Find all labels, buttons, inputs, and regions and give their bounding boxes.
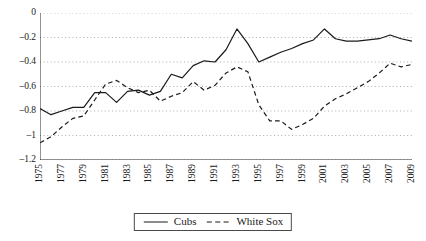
plot-area xyxy=(40,13,412,160)
y-tick-label: –0.6 xyxy=(19,82,36,92)
line-chart: 0–0.2–0.4–0.6–0.8–1–1.2 1975197719791981… xyxy=(0,0,426,241)
x-tick-label: 2007 xyxy=(385,164,395,183)
x-tick-label: 1989 xyxy=(188,164,198,183)
legend-line-dashed-icon xyxy=(205,218,231,226)
x-tick-label: 2001 xyxy=(319,164,329,183)
x-tick-label: 1995 xyxy=(254,164,264,183)
x-tick-label: 1981 xyxy=(101,164,111,183)
y-axis: 0–0.2–0.4–0.6–0.8–1–1.2 xyxy=(0,0,36,241)
x-tick-label: 1983 xyxy=(123,164,133,183)
y-tick-label: –0.8 xyxy=(19,106,36,116)
x-tick-label: 1987 xyxy=(166,164,176,183)
chart-legend: Cubs White Sox xyxy=(134,213,292,231)
y-tick-label: –0.4 xyxy=(19,57,36,67)
x-tick-label: 1979 xyxy=(79,164,89,183)
x-tick-label: 1991 xyxy=(210,164,220,183)
legend-entry-white-sox: White Sox xyxy=(205,216,283,227)
legend-entry-cubs: Cubs xyxy=(143,216,197,227)
y-tick-label: –1 xyxy=(27,131,37,141)
legend-label-white-sox: White Sox xyxy=(236,216,283,227)
x-tick-label: 1993 xyxy=(232,164,242,183)
series-line-white-sox xyxy=(40,63,412,143)
x-axis: 1975197719791981198319851987198919911993… xyxy=(40,164,412,208)
x-tick-label: 2009 xyxy=(407,164,417,183)
x-tick-label: 2003 xyxy=(341,164,351,183)
x-tick-label: 2005 xyxy=(363,164,373,183)
legend-line-solid-icon xyxy=(143,218,169,226)
y-tick-label: –0.2 xyxy=(19,33,36,43)
x-tick-label: 1999 xyxy=(298,164,308,183)
x-tick-label: 1985 xyxy=(144,164,154,183)
y-tick-label: 0 xyxy=(31,8,36,18)
plot-svg xyxy=(40,13,412,160)
x-tick-label: 1975 xyxy=(35,164,45,183)
legend-label-cubs: Cubs xyxy=(174,216,197,227)
series-line-cubs xyxy=(40,29,412,115)
x-tick-label: 1997 xyxy=(276,164,286,183)
x-tick-label: 1977 xyxy=(57,164,67,183)
